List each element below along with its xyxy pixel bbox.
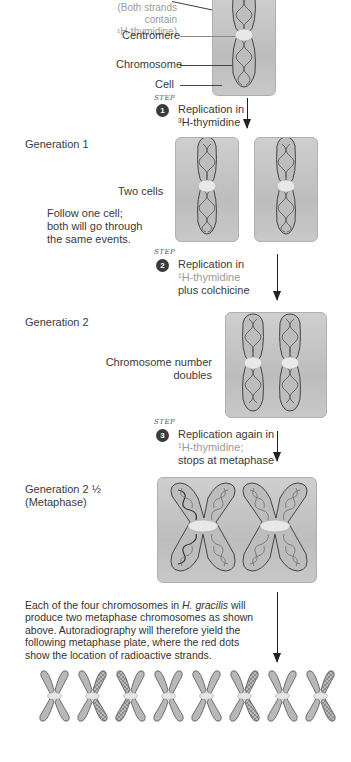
follow-line3: the same events. <box>47 233 142 246</box>
step1-line2: ³H-thymidine <box>178 116 244 129</box>
follow-line2: both will go through <box>47 220 142 233</box>
metaphase-chromosomes-icon <box>158 478 316 582</box>
conclusion-line1-pre: Each of the four chromosomes in <box>25 599 182 611</box>
chromosome-single-icon <box>213 0 275 95</box>
cell-leader-line <box>180 85 222 86</box>
metaphase-chromosome-6 <box>230 671 259 721</box>
doubles-note: Chromosome number doubles <box>100 356 212 382</box>
doubles-line1: Chromosome number <box>100 356 212 369</box>
step2-text: Replication in ¹H-thymidine plus colchic… <box>178 258 250 297</box>
conclusion-line5: show the location of radioactive strands… <box>25 649 255 661</box>
conclusion-line4: following metaphase plate, where the red… <box>25 636 255 648</box>
step3-text: Replication again in ¹H-thymidine; stops… <box>178 428 274 467</box>
conclusion-line3: above. Autoradiography will therefore yi… <box>25 624 255 636</box>
step3-line2: ¹H-thymidine; <box>178 441 274 454</box>
step1-line1: Replication in <box>178 103 244 116</box>
centromere-leader-line <box>180 36 235 37</box>
metaphase-chromosome-3 <box>116 671 145 721</box>
gen1-cell-left <box>175 137 239 242</box>
final-arrow <box>277 592 278 662</box>
metaphase-plate <box>36 670 336 725</box>
step1-tag: STEP <box>154 94 175 102</box>
conclusion-paragraph: Each of the four chromosomes in H. graci… <box>25 599 255 661</box>
step3-tag: STEP <box>154 418 175 426</box>
step2-line3: plus colchicine <box>178 284 250 297</box>
step2-tag: STEP <box>154 248 175 256</box>
conclusion-line1-post: will <box>228 599 246 611</box>
strands-note-line1: (Both strands contain <box>92 2 177 26</box>
follow-note: Follow one cell; both will go through th… <box>47 207 142 246</box>
two-cells-label: Two cells <box>118 185 163 198</box>
step3-arrow <box>277 431 278 461</box>
conclusion-line2: produce two metaphase chromosomes as sho… <box>25 611 255 623</box>
chromosome-label: Chromosome <box>116 58 182 71</box>
gen2-cell <box>225 312 327 418</box>
step3-line1: Replication again in <box>178 428 274 441</box>
step3-line3: stops at metaphase <box>178 454 274 467</box>
follow-line1: Follow one cell; <box>47 207 142 220</box>
generation2-5-title: Generation 2 ½ (Metaphase) <box>25 483 101 509</box>
conclusion-line1: Each of the four chromosomes in H. graci… <box>25 599 255 611</box>
generation1-title: Generation 1 <box>25 138 89 151</box>
step2-arrow <box>277 254 278 300</box>
chromosome-single-icon <box>255 138 317 241</box>
chromosome-leader-line <box>180 65 232 66</box>
doubles-line2: doubles <box>100 369 212 382</box>
generation2-title: Generation 2 <box>25 316 89 329</box>
centromere-label: Centromere <box>122 29 180 42</box>
chromosome-pair-icon <box>226 313 326 417</box>
step1-badge: 1 <box>156 104 169 117</box>
step1-text: Replication in ³H-thymidine <box>178 103 244 129</box>
step1-arrow <box>247 98 248 128</box>
step2-line2: ¹H-thymidine <box>178 271 250 284</box>
step2-line1: Replication in <box>178 258 250 271</box>
cell-label: Cell <box>155 78 174 91</box>
metaphase-chromosome-8 <box>306 671 335 721</box>
gen1-cell-right <box>254 137 318 242</box>
metaphase-chromosome-5 <box>192 671 221 721</box>
gen2-5-cell <box>157 477 317 583</box>
strands-leader-line <box>172 1 216 11</box>
metaphase-chromosome-4 <box>154 671 183 721</box>
chromosome-single-icon <box>176 138 238 241</box>
metaphase-chromosome-7 <box>268 671 297 721</box>
step3-badge: 3 <box>156 429 169 442</box>
generation2-5-line1: Generation 2 ½ <box>25 483 101 496</box>
species-name: H. gracilis <box>182 599 228 611</box>
top-cell <box>212 0 276 96</box>
metaphase-chromosome-1 <box>40 671 69 721</box>
metaphase-chromosome-2 <box>78 671 107 721</box>
step2-badge: 2 <box>156 259 169 272</box>
generation2-5-line2: (Metaphase) <box>25 496 101 509</box>
